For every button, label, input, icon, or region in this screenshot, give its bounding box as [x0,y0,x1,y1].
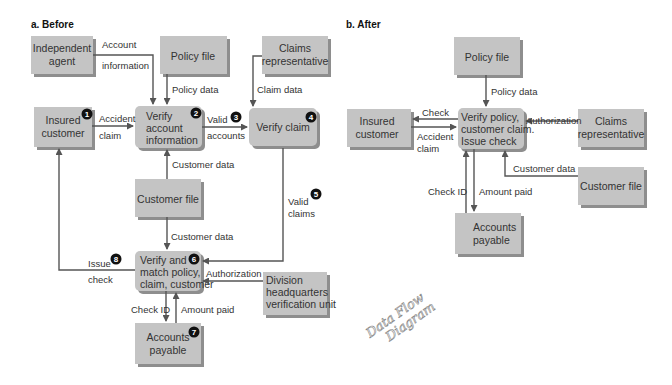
svg-text:representative: representative [578,128,645,140]
data-flow-diagram: a. Before Independent agent Policy file … [0,0,672,385]
svg-text:match policy,: match policy, [140,266,201,278]
svg-text:Policy data: Policy data [172,84,219,95]
svg-text:Amount paid: Amount paid [479,186,532,197]
svg-text:Customer data: Customer data [171,231,234,242]
svg-text:claim: claim [99,130,121,141]
step-1: 1 [82,109,93,120]
svg-text:Customer data: Customer data [513,163,576,174]
step-5: 5 [311,189,322,200]
svg-text:verification unit: verification unit [266,298,336,310]
entity-claims-representative-before: Claims representative [262,36,331,77]
svg-text:1: 1 [85,110,90,119]
svg-text:Policy data: Policy data [491,86,538,97]
svg-text:Claims: Claims [595,115,627,127]
svg-text:Amount paid: Amount paid [181,304,234,315]
svg-text:claim: claim [417,143,439,154]
svg-text:information: information [102,60,149,71]
svg-text:Account: Account [102,39,137,50]
svg-text:payable: payable [150,344,187,356]
svg-text:Claim data: Claim data [257,84,303,95]
svg-text:customer claim.: customer claim. [461,123,535,135]
process-verify-and-match: Verify and match policy, claim, customer [135,251,214,294]
svg-text:claim, customer: claim, customer [140,278,214,290]
svg-text:representative: representative [262,55,329,67]
svg-text:7: 7 [192,328,197,337]
entity-claims-representative-after: Claims representative [578,109,647,150]
svg-text:Policy file: Policy file [465,51,510,63]
svg-text:Accident: Accident [417,131,454,142]
svg-text:Verify: Verify [146,110,173,122]
svg-text:8: 8 [114,255,119,264]
step-7: 7 [189,327,200,338]
svg-text:4: 4 [309,113,314,122]
svg-text:Claims: Claims [279,42,311,54]
svg-text:3: 3 [234,113,239,122]
svg-text:Issue check: Issue check [461,135,517,147]
svg-text:customer: customer [41,127,85,139]
entity-customer-file-after: Customer file [578,167,647,208]
step-6: 6 [189,254,200,265]
svg-text:Accounts: Accounts [473,221,516,233]
svg-text:Insured: Insured [45,114,80,126]
step-4: 4 [306,112,317,123]
step-3: 3 [231,112,242,123]
svg-text:headquarters: headquarters [266,286,328,298]
svg-text:information: information [146,134,198,146]
svg-text:Customer file: Customer file [137,193,199,205]
svg-text:Customer file: Customer file [580,180,642,192]
step-2: 2 [191,108,202,119]
entity-insured-customer-after: Insured customer [347,109,414,150]
svg-text:Check ID: Check ID [131,304,170,315]
process-verify-policy-issue-check: Verify policy, customer claim. Issue che… [458,108,535,152]
svg-text:Verify policy,: Verify policy, [461,111,519,123]
svg-text:6: 6 [192,255,197,264]
svg-text:2: 2 [194,109,199,118]
svg-text:Authorization: Authorization [526,115,581,126]
entity-customer-file-before: Customer file [135,179,204,220]
panel-title-after: b. After [346,19,381,30]
entity-division-headquarters: Division headquarters verification unit [263,272,336,318]
svg-text:Check: Check [422,107,449,118]
svg-text:Verify and: Verify and [140,254,187,266]
svg-text:account: account [146,122,183,134]
svg-text:Accident: Accident [99,113,136,124]
entity-independent-agent: Independent agent [31,36,96,77]
panel-title-before: a. Before [31,19,74,30]
entity-policy-file-before: Policy file [160,36,230,77]
svg-text:check: check [88,274,113,285]
svg-text:Independent: Independent [33,42,91,54]
handwritten-annotation: Data Flow Diagram [362,287,438,352]
svg-text:Accounts: Accounts [146,331,189,343]
svg-text:Division: Division [266,274,303,286]
svg-text:agent: agent [49,55,75,67]
svg-text:payable: payable [473,234,510,246]
svg-text:Issue: Issue [88,258,111,269]
svg-text:Verify claim: Verify claim [256,121,310,133]
svg-text:Check ID: Check ID [428,186,467,197]
svg-text:claims: claims [288,208,315,219]
svg-text:Valid: Valid [288,196,308,207]
step-8: 8 [111,254,122,265]
svg-text:5: 5 [314,190,319,199]
entity-accounts-payable-after: Accounts payable [455,213,524,257]
svg-text:Valid: Valid [207,114,227,125]
svg-text:customer: customer [355,128,399,140]
entity-policy-file-after: Policy file [454,37,523,78]
svg-text:Policy file: Policy file [171,50,216,62]
svg-text:accounts: accounts [207,130,245,141]
svg-text:Authorization: Authorization [206,268,261,279]
svg-text:Customer data: Customer data [172,159,235,170]
svg-text:Insured: Insured [359,115,394,127]
